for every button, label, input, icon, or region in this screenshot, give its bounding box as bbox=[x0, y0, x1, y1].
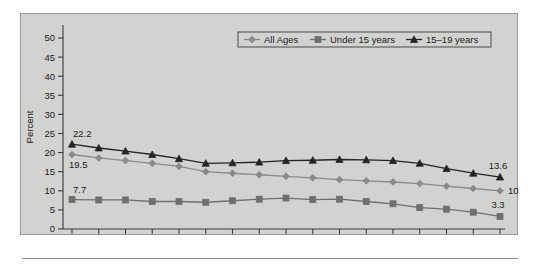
y-axis-tick-labels: 05101520253035404550 bbox=[44, 32, 55, 234]
chart-figure: Percent 05101520253035404550 19891990199… bbox=[20, 13, 518, 235]
series-marker bbox=[363, 198, 369, 204]
y-tick-label: 45 bbox=[44, 52, 55, 63]
series-marker bbox=[336, 176, 343, 183]
series-marker bbox=[202, 168, 209, 175]
data-point-label: 10.0 bbox=[508, 185, 519, 196]
y-tick-label: 20 bbox=[44, 147, 55, 158]
y-axis-title: Percent bbox=[24, 110, 35, 143]
series-marker bbox=[497, 213, 503, 219]
x-axis-ticks bbox=[72, 229, 500, 234]
legend-label: All Ages bbox=[264, 34, 299, 45]
legend-marker bbox=[315, 37, 321, 43]
series-marker bbox=[470, 209, 476, 215]
series-marker bbox=[497, 187, 504, 194]
series-marker bbox=[310, 197, 316, 203]
series-marker bbox=[256, 171, 263, 178]
data-point-label: 13.6 bbox=[489, 160, 508, 171]
series-marker bbox=[123, 197, 129, 203]
series-marker bbox=[337, 196, 343, 202]
series-marker bbox=[470, 185, 477, 192]
series-marker bbox=[176, 198, 182, 204]
series-marker bbox=[390, 201, 396, 207]
series-marker bbox=[176, 163, 183, 170]
y-tick-label: 10 bbox=[44, 185, 55, 196]
series-marker bbox=[417, 205, 423, 211]
y-tick-label: 30 bbox=[44, 109, 55, 120]
chart-legend: All AgesUnder 15 years15–19 years bbox=[238, 32, 491, 47]
legend-label: Under 15 years bbox=[330, 34, 395, 45]
series-marker bbox=[416, 180, 423, 187]
series-marker bbox=[122, 157, 129, 164]
y-tick-label: 35 bbox=[44, 90, 55, 101]
series-marker bbox=[203, 199, 209, 205]
series-marker bbox=[68, 141, 75, 148]
legend-label: 15–19 years bbox=[426, 34, 479, 45]
series-marker bbox=[363, 177, 370, 184]
data-point-label: 7.7 bbox=[73, 184, 86, 195]
chart-series-layer bbox=[68, 141, 503, 220]
series-under-15-years bbox=[69, 195, 503, 219]
y-tick-label: 25 bbox=[44, 128, 55, 139]
y-tick-label: 5 bbox=[50, 204, 55, 215]
series-marker bbox=[69, 151, 76, 158]
data-point-label: 3.3 bbox=[491, 199, 504, 210]
series-marker bbox=[95, 155, 102, 162]
series-marker bbox=[229, 170, 236, 177]
series-marker bbox=[283, 173, 290, 180]
y-tick-label: 50 bbox=[44, 32, 55, 43]
series-marker bbox=[149, 160, 156, 167]
series-marker bbox=[230, 198, 236, 204]
data-point-label: 19.5 bbox=[69, 159, 88, 170]
series-marker bbox=[96, 197, 102, 203]
series-marker bbox=[443, 183, 450, 190]
line-chart: Percent 05101520253035404550 19891990199… bbox=[21, 14, 519, 236]
y-axis-ticks bbox=[58, 38, 63, 229]
series-marker bbox=[149, 198, 155, 204]
series-marker bbox=[256, 196, 262, 202]
data-point-label: 22.2 bbox=[73, 128, 92, 139]
series-marker bbox=[283, 195, 289, 201]
y-tick-label: 40 bbox=[44, 71, 55, 82]
series-marker bbox=[69, 197, 75, 203]
series-marker bbox=[444, 206, 450, 212]
footer-divider bbox=[22, 258, 518, 259]
y-tick-label: 0 bbox=[50, 223, 55, 234]
series-marker bbox=[390, 179, 397, 186]
y-tick-label: 15 bbox=[44, 166, 55, 177]
series-marker bbox=[309, 174, 316, 181]
